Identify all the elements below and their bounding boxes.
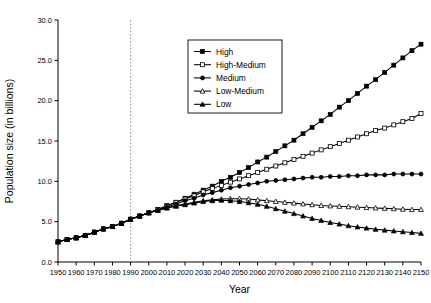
marker-open-square: [392, 123, 396, 127]
x-tick-label: 2120: [358, 268, 375, 277]
marker-filled-circle: [392, 172, 396, 176]
marker-filled-square: [355, 91, 359, 95]
marker-filled-square: [319, 119, 323, 123]
marker-filled-circle: [355, 174, 359, 178]
marker-open-square: [238, 177, 242, 181]
marker-filled-square: [365, 84, 369, 88]
marker-filled-square: [383, 70, 387, 74]
x-tick-label: 2000: [140, 268, 157, 277]
marker-filled-square: [301, 132, 305, 136]
x-tick-label: 2140: [395, 268, 412, 277]
marker-filled-square: [328, 112, 332, 116]
marker-open-square: [383, 126, 387, 130]
marker-open-square: [283, 161, 287, 165]
series-low: [56, 198, 424, 244]
legend-marker: [201, 63, 205, 67]
marker-filled-circle: [247, 183, 251, 187]
marker-filled-circle: [256, 181, 260, 185]
marker-filled-circle: [319, 175, 323, 179]
marker-filled-square: [410, 49, 414, 53]
marker-filled-square: [274, 149, 278, 153]
marker-filled-square: [256, 160, 260, 164]
marker-open-square: [319, 148, 323, 152]
legend: HighHigh-MediumMediumLow-MediumLow: [188, 40, 282, 113]
y-axis-title: Population size (in billions): [3, 79, 15, 203]
marker-filled-square: [283, 144, 287, 148]
marker-open-square: [365, 132, 369, 136]
marker-filled-circle: [201, 76, 205, 80]
marker-filled-circle: [201, 193, 205, 197]
x-tick-label: 2130: [376, 268, 393, 277]
marker-filled-square: [419, 42, 423, 46]
x-tick-label: 2060: [249, 268, 266, 277]
y-tick-label: 0.0: [42, 258, 52, 267]
legend-label-low-medium: Low-Medium: [216, 86, 264, 96]
marker-open-square: [337, 141, 341, 145]
x-tick-label: 1990: [122, 268, 139, 277]
marker-filled-circle: [238, 184, 242, 188]
marker-filled-circle: [265, 179, 269, 183]
x-tick-label: 2070: [267, 268, 284, 277]
marker-open-square: [346, 138, 350, 142]
marker-open-square: [374, 129, 378, 133]
marker-filled-square: [238, 170, 242, 174]
marker-filled-circle: [301, 176, 305, 180]
y-tick-label: 15.0: [37, 137, 52, 146]
marker-open-square: [219, 183, 223, 187]
marker-filled-square: [247, 166, 251, 170]
x-tick-label: 1980: [104, 268, 121, 277]
legend-label-high: High: [216, 47, 234, 57]
y-tick-label: 25.0: [37, 56, 52, 65]
legend-label-low: Low: [216, 99, 232, 109]
marker-filled-circle: [410, 172, 414, 176]
marker-filled-circle: [337, 174, 341, 178]
marker-open-square: [265, 167, 269, 171]
x-tick-label: 1960: [68, 268, 85, 277]
marker-filled-circle: [346, 174, 350, 178]
marker-open-square: [328, 145, 332, 149]
x-tick-label: 2030: [195, 268, 212, 277]
x-tick-label: 2150: [413, 268, 430, 277]
marker-filled-square: [228, 175, 232, 179]
x-tick-label: 1950: [50, 268, 67, 277]
x-tick-label: 2110: [340, 268, 356, 277]
y-tick-label: 10.0: [37, 177, 52, 186]
marker-open-square: [274, 164, 278, 168]
marker-open-square: [301, 154, 305, 158]
x-tick-label: 2100: [322, 268, 339, 277]
y-tick-label: 30.0: [37, 16, 52, 25]
legend-marker: [201, 76, 205, 80]
x-tick-label: 1970: [86, 268, 103, 277]
marker-filled-circle: [419, 172, 423, 176]
marker-filled-circle: [401, 172, 405, 176]
marker-open-square: [292, 158, 296, 162]
legend-label-high-medium: High-Medium: [216, 60, 266, 70]
marker-open-square: [228, 180, 232, 184]
legend-marker: [201, 50, 205, 54]
marker-filled-circle: [274, 179, 278, 183]
marker-filled-circle: [365, 173, 369, 177]
marker-open-square: [401, 120, 405, 124]
marker-open-square: [247, 174, 251, 178]
x-tick-label: 2050: [231, 268, 248, 277]
marker-filled-square: [392, 63, 396, 67]
x-axis-title: Year: [229, 283, 251, 295]
marker-filled-square: [337, 105, 341, 109]
x-tick-label: 2020: [177, 268, 194, 277]
marker-filled-square: [346, 99, 350, 103]
chart-canvas: 0.05.010.015.020.025.030.019501960197019…: [0, 0, 431, 303]
x-tick-label: 2040: [213, 268, 230, 277]
marker-filled-circle: [328, 174, 332, 178]
legend-label-medium: Medium: [216, 73, 246, 83]
marker-filled-circle: [374, 173, 378, 177]
marker-open-square: [355, 135, 359, 139]
marker-open-square: [210, 187, 214, 191]
marker-filled-circle: [210, 191, 214, 195]
population-projection-chart: 0.05.010.015.020.025.030.019501960197019…: [0, 0, 431, 303]
marker-filled-circle: [228, 186, 232, 190]
marker-open-square: [419, 112, 423, 116]
y-tick-label: 5.0: [42, 217, 52, 226]
marker-filled-circle: [310, 175, 314, 179]
marker-open-square: [201, 63, 205, 67]
marker-filled-square: [374, 78, 378, 82]
